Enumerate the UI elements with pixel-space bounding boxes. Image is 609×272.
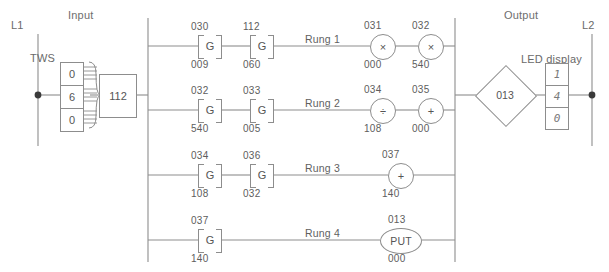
rung-2-contact-2-bottom: 005 bbox=[243, 123, 261, 134]
ladder-diagram-canvas: Input Output L1 L2 TWS 0 6 0 112 Rung 1 … bbox=[0, 0, 609, 272]
get-symbol: G bbox=[250, 99, 274, 121]
rung-3-contact-2-bottom: 032 bbox=[243, 188, 261, 199]
rung-4-output-1-top: 013 bbox=[388, 214, 406, 225]
rung-1-output-2-bottom: 540 bbox=[412, 59, 430, 70]
input-interface-box: 112 bbox=[99, 74, 137, 118]
l2-junction-dot bbox=[589, 92, 596, 99]
get-symbol: G bbox=[250, 35, 274, 57]
rung-3-output-1-bottom: 140 bbox=[382, 188, 400, 199]
rung-3-contact-1-top: 034 bbox=[191, 150, 209, 161]
rung-2-output-1[interactable]: ÷ bbox=[370, 98, 396, 124]
tws-digit-0[interactable]: 0 bbox=[61, 63, 83, 86]
right-rail-label: L2 bbox=[582, 19, 595, 31]
tws-digit-1[interactable]: 6 bbox=[61, 86, 83, 109]
rung-1-output-1-bottom: 000 bbox=[364, 59, 382, 70]
rung-4-contact-1-top: 037 bbox=[191, 215, 209, 226]
rung-1-output-2-top: 032 bbox=[412, 20, 430, 31]
led-display: 1 4 0 bbox=[545, 63, 569, 130]
rung-2-output-2-bottom: 000 bbox=[412, 123, 430, 134]
rung-2-contact-2[interactable]: G bbox=[250, 99, 274, 121]
rung-1-contact-2[interactable]: G bbox=[250, 35, 274, 57]
rung-2-label: Rung 2 bbox=[305, 97, 340, 109]
rung-2-contact-1-top: 032 bbox=[191, 85, 209, 96]
left-rail-label: L1 bbox=[11, 19, 24, 31]
rung-1-contact-2-bottom: 060 bbox=[243, 59, 261, 70]
get-symbol: G bbox=[250, 164, 274, 186]
rung-1-contact-1-bottom: 009 bbox=[191, 59, 209, 70]
rung-1-output-1-top: 031 bbox=[364, 20, 382, 31]
rung-2-output-1-bottom: 108 bbox=[364, 123, 382, 134]
led-digit-2: 0 bbox=[546, 108, 568, 129]
rung-2-contact-2-top: 033 bbox=[243, 85, 261, 96]
thumbwheel-switch[interactable]: 0 6 0 bbox=[60, 62, 84, 132]
rung-3-output-1-top: 037 bbox=[382, 149, 400, 160]
output-section-label: Output bbox=[504, 9, 538, 21]
rung-3-contact-1[interactable]: G bbox=[198, 164, 222, 186]
rung-1-contact-2-top: 112 bbox=[243, 21, 260, 32]
rung-2-contact-1[interactable]: G bbox=[198, 99, 222, 121]
led-digit-0: 1 bbox=[546, 64, 568, 86]
rung-4-output-put-coil[interactable]: PUT bbox=[380, 228, 422, 254]
rung-4-label: Rung 4 bbox=[305, 227, 340, 239]
get-symbol: G bbox=[198, 99, 222, 121]
rung-4-contact-1-bottom: 140 bbox=[191, 253, 209, 264]
rung-1-contact-1-top: 030 bbox=[191, 21, 209, 32]
get-symbol: G bbox=[198, 229, 222, 251]
rung-4-output-1-bottom: 000 bbox=[388, 253, 406, 264]
rung-3-contact-2-top: 036 bbox=[243, 150, 261, 161]
l1-junction-dot bbox=[35, 92, 42, 99]
rung-2-output-1-top: 034 bbox=[364, 84, 382, 95]
get-symbol: G bbox=[198, 164, 222, 186]
led-digit-1: 4 bbox=[546, 86, 568, 108]
rung-4-contact-1[interactable]: G bbox=[198, 229, 222, 251]
rung-3-output-1[interactable]: + bbox=[388, 163, 414, 189]
rung-3-contact-1-bottom: 108 bbox=[191, 188, 209, 199]
rung-1-label: Rung 1 bbox=[305, 33, 340, 45]
rung-3-label: Rung 3 bbox=[305, 162, 340, 174]
rung-1-output-2[interactable]: × bbox=[418, 34, 444, 60]
rung-2-output-2[interactable]: + bbox=[418, 98, 444, 124]
output-module-label: 013 bbox=[494, 89, 516, 101]
rung-3-contact-2[interactable]: G bbox=[250, 164, 274, 186]
rung-2-output-2-top: 035 bbox=[412, 84, 430, 95]
input-section-label: Input bbox=[68, 9, 93, 21]
get-symbol: G bbox=[198, 35, 222, 57]
rung-1-output-1[interactable]: × bbox=[370, 34, 396, 60]
rung-1-contact-1[interactable]: G bbox=[198, 35, 222, 57]
tws-label: TWS bbox=[30, 52, 55, 64]
tws-digit-2[interactable]: 0 bbox=[61, 109, 83, 131]
rung-2-contact-1-bottom: 540 bbox=[191, 123, 209, 134]
